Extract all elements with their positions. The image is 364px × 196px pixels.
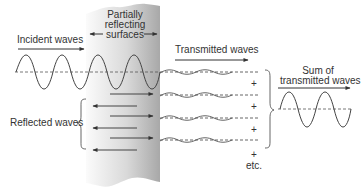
sum-wave: [280, 92, 351, 127]
plus-sign-4: +: [251, 150, 257, 161]
reflected-waves-label: Reflected waves: [10, 118, 83, 129]
surfaces-label-line3: surfaces: [104, 30, 146, 41]
etc-label: etc.: [246, 161, 262, 172]
transmitted-wave-4: [160, 138, 258, 143]
incident-waves-label: Incident waves: [17, 35, 83, 46]
transmitted-waves: [160, 70, 258, 143]
plus-sign-3: +: [251, 125, 257, 136]
diagram-graphics: [0, 0, 364, 196]
sum-brace: [265, 70, 274, 148]
sum-label-line2: transmitted waves: [280, 76, 356, 87]
transmitted-waves-label: Transmitted waves: [175, 45, 259, 56]
diagram-canvas: Incident waves Partially reflecting surf…: [0, 0, 364, 196]
plus-sign-1: +: [251, 79, 257, 90]
transmitted-wave-2: [160, 93, 258, 98]
transmitted-wave-3: [160, 116, 258, 121]
plus-sign-2: +: [251, 102, 257, 113]
transmitted-wave-1: [160, 70, 258, 75]
